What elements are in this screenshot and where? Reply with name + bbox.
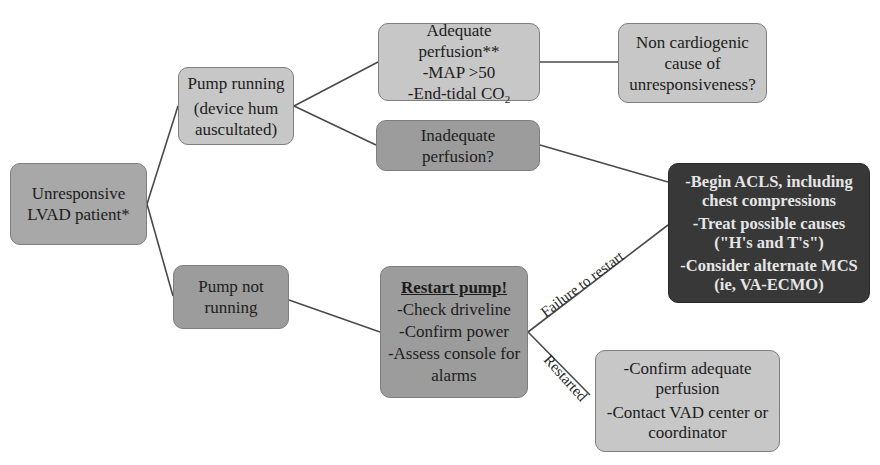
node-restart-pump: Restart pump! -Check driveline -Confirm … xyxy=(380,266,528,398)
node-text: Unresponsive xyxy=(32,183,125,204)
node-title: Restart pump! xyxy=(401,277,507,299)
node-item: alarms xyxy=(431,365,476,387)
node-text: unresponsiveness? xyxy=(629,74,756,95)
node-item: -Contact VAD center or xyxy=(607,403,768,423)
node-text: Inadequate perfusion? xyxy=(383,125,533,167)
node-item: -Check driveline xyxy=(397,299,511,321)
node-item: ("H's and T's") xyxy=(714,233,824,252)
node-text: (device hum xyxy=(194,98,279,119)
node-item: -Assess console for xyxy=(388,343,520,365)
node-acls: -Begin ACLS, including chest compression… xyxy=(668,163,870,303)
node-item: -Confirm power xyxy=(399,321,509,343)
node-non-cardiogenic-cause: Non cardiogenic cause of unresponsivenes… xyxy=(618,23,767,103)
node-item: -Consider alternate MCS xyxy=(680,256,858,275)
node-item: perfusion xyxy=(655,379,719,399)
node-item: -End-tidal CO2 xyxy=(408,83,510,104)
node-text: Pump running xyxy=(188,73,285,94)
node-text: Non cardiogenic xyxy=(636,32,749,53)
node-pump-not-running: Pump not running xyxy=(173,265,289,329)
node-text: running xyxy=(205,297,258,318)
node-item: -MAP >50 xyxy=(423,62,496,83)
node-pump-running: Pump running (device hum auscultated) xyxy=(178,67,294,145)
node-text: cause of xyxy=(664,53,720,74)
node-inadequate-perfusion: Inadequate perfusion? xyxy=(376,120,540,171)
node-text: LVAD patient* xyxy=(27,204,129,225)
node-text: Pump not xyxy=(198,276,264,297)
node-item: -Begin ACLS, including xyxy=(685,172,852,191)
node-item: -Treat possible causes xyxy=(693,214,845,233)
node-restarted-actions: -Confirm adequate perfusion -Contact VAD… xyxy=(595,350,780,452)
node-text: auscultated) xyxy=(195,119,277,140)
node-unresponsive-lvad-patient: Unresponsive LVAD patient* xyxy=(10,163,147,245)
node-item: chest compressions xyxy=(702,191,836,210)
node-title: Adequate perfusion** xyxy=(385,20,533,62)
node-item: -Confirm adequate xyxy=(624,359,752,379)
node-item: coordinator xyxy=(648,423,726,443)
node-item: (ie, VA-ECMO) xyxy=(714,275,823,294)
node-adequate-perfusion: Adequate perfusion** -MAP >50 -End-tidal… xyxy=(378,23,540,101)
